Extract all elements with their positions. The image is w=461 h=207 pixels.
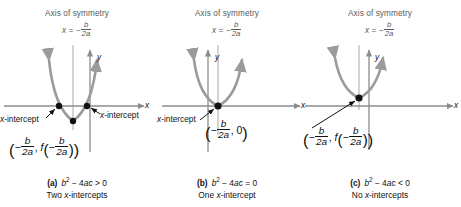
- x-intercept-label-right-a: x-intercept: [100, 110, 139, 120]
- caption-condition-a: (a)b2 − 4ac > 0: [2, 176, 152, 188]
- pointer-left-a: [46, 109, 55, 118]
- x-intercept-point-right-a: [84, 103, 90, 109]
- caption-result-b: One x-intercept: [152, 190, 302, 200]
- x-intercept-label-b: x-intercept: [157, 114, 196, 124]
- x-axis-label-c: x: [454, 100, 458, 110]
- caption-letter-a: (a): [47, 178, 57, 188]
- caption-condition-b: (b)b2 − 4ac = 0: [152, 176, 302, 188]
- caption-result-c: No x-intercepts: [305, 190, 455, 200]
- caption-result-a: Two x-intercepts: [2, 190, 152, 200]
- caption-condition-c: (c)b2 − 4ac < 0: [305, 176, 455, 188]
- x-intercept-label-left-a: x-intercept: [0, 114, 39, 124]
- x-intercept-point-left-a: [56, 103, 62, 109]
- pointer-c: [312, 101, 355, 128]
- vertex-point-a: [70, 118, 76, 124]
- y-axis-label-b: y: [215, 52, 219, 62]
- y-axis-label-a: y: [97, 52, 101, 62]
- y-axis-label-c: y: [375, 52, 379, 62]
- quadratic-discriminant-figure: Axis of symmetry x = −b2a: [0, 0, 461, 207]
- panel-b: Axis of symmetry x = −b2a: [152, 0, 302, 207]
- panel-c: Axis of symmetry x = −b2a: [305, 0, 455, 207]
- x-intercept-vertex-point-b: [214, 102, 221, 109]
- vertex-point-c: [355, 94, 362, 101]
- vertex-label-a: (−b2a, f(−b2a)): [9, 136, 79, 158]
- vertex-label-b: (−b2a, 0): [205, 119, 248, 141]
- pointer-right-a: [91, 108, 100, 114]
- caption-letter-c: (c): [350, 178, 360, 188]
- x-axis-label-a: x: [145, 100, 149, 110]
- caption-letter-b: (b): [197, 178, 208, 188]
- vertex-label-c: (−b2a, f(−b2a)): [303, 126, 373, 148]
- panel-a: Axis of symmetry x = −b2a: [2, 0, 152, 207]
